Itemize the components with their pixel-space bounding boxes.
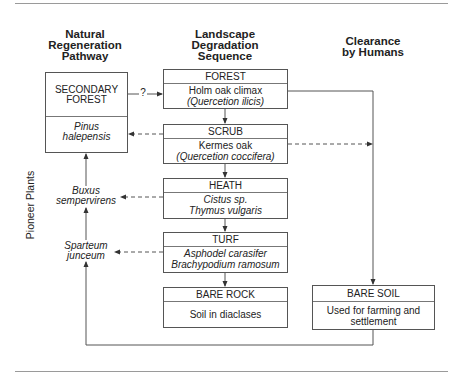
stage-line: Asphodel carasifer [164, 248, 287, 259]
stage-line: Kermes oak [164, 140, 287, 151]
bare-soil-body: Used for farming and settlement [313, 302, 434, 327]
question-mark-label: ? [139, 88, 147, 98]
stage-title: FOREST [164, 70, 287, 84]
stage-line: Brachypodium ramosum [164, 259, 287, 270]
secondary-forest-species: Pinus halepensis [46, 117, 127, 142]
stage-line: Soil in diaclases [164, 309, 287, 320]
secondary-forest-box: SECONDARY FOREST Pinus halepensis [45, 72, 128, 153]
bare-soil-title: BARE SOIL [313, 286, 434, 302]
stage-heath-box: HEATH Cistus sp. Thymus vulgaris [163, 178, 288, 219]
stage-line: Thymus vulgaris [164, 205, 287, 216]
stage-line: (Quercetion ilicis) [164, 96, 287, 107]
bare-soil-line: Used for farming and [313, 305, 434, 316]
stage-title: HEATH [164, 179, 287, 193]
pioneer-buxus: Buxus sempervirens [50, 186, 122, 206]
stage-body: Asphodel carasifer Brachypodium ramosum [164, 247, 287, 270]
stage-title: TURF [164, 233, 287, 247]
pioneer-line: junceum [55, 251, 117, 261]
stage-line: Holm oak climax [164, 85, 287, 96]
stage-body: Holm oak climax (Quercetion ilicis) [164, 84, 287, 107]
secondary-forest-title: SECONDARY FOREST [46, 73, 127, 117]
pioneer-sparteum: Sparteum junceum [55, 241, 117, 261]
stage-line: Cistus sp. [164, 194, 287, 205]
bare-soil-line: settlement [313, 316, 434, 327]
stage-title: SCRUB [164, 125, 287, 139]
stage-body: Kermes oak (Quercetion coccifera) [164, 139, 287, 162]
pioneer-plants-label: Pioneer Plants [24, 171, 36, 239]
stage-body: Soil in diaclases [164, 302, 287, 320]
bare-soil-box: BARE SOIL Used for farming and settlemen… [312, 285, 435, 330]
species-line: halepensis [46, 132, 127, 142]
stage-body: Cistus sp. Thymus vulgaris [164, 193, 287, 216]
stage-turf-box: TURF Asphodel carasifer Brachypodium ram… [163, 232, 288, 273]
stage-title: BARE ROCK [164, 288, 287, 302]
title-line: FOREST [46, 95, 127, 105]
stage-line: (Quercetion coccifera) [164, 151, 287, 162]
stage-bare-rock-box: BARE ROCK Soil in diaclases [163, 287, 288, 328]
stage-forest-box: FOREST Holm oak climax (Quercetion ilici… [163, 69, 288, 109]
stage-scrub-box: SCRUB Kermes oak (Quercetion coccifera) [163, 124, 288, 164]
pioneer-line: sempervirens [50, 196, 122, 206]
